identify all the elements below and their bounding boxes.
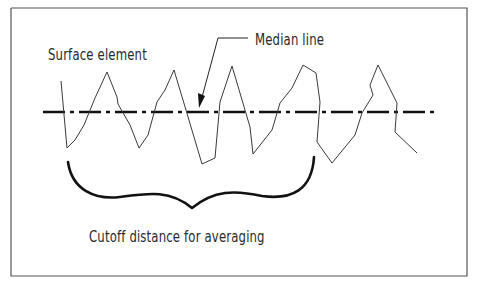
cutoff-distance-label: Cutoff distance for averaging (89, 228, 265, 246)
median-leader-line (201, 38, 248, 101)
surface-element-label: Surface element (48, 46, 147, 64)
surface-roughness-diagram: Surface element Median line Cutoff dista… (0, 0, 483, 287)
surface-profile (61, 65, 417, 164)
median-line-label: Median line (255, 31, 324, 49)
cutoff-brace (68, 157, 314, 208)
median-arrowhead-icon (198, 93, 205, 108)
